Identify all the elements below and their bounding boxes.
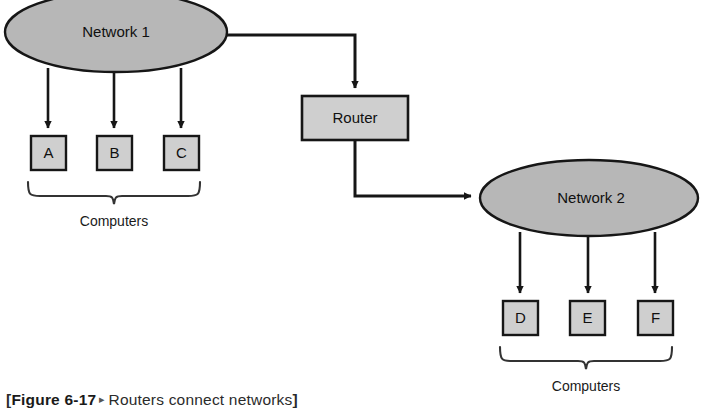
computers-left-group: Computers xyxy=(28,182,200,229)
computer-a-label: A xyxy=(43,144,53,161)
caption-separator-icon: ▸ xyxy=(96,393,108,405)
edge-router-network2-path xyxy=(355,140,471,196)
router-label: Router xyxy=(332,109,377,126)
network-diagram: Network 1 Router A B xyxy=(0,0,701,416)
edges-network2-to-computers xyxy=(520,232,655,293)
computer-f-label: F xyxy=(651,309,660,326)
caption-figure-number: Figure 6-17 xyxy=(11,391,96,408)
figure-caption-bar: [Figure 6-17▸Routers connect networks] xyxy=(0,390,701,416)
figure-caption: [Figure 6-17▸Routers connect networks] xyxy=(6,391,298,409)
edge-network1-router-path xyxy=(227,35,355,88)
network-2-label: Network 2 xyxy=(557,189,625,206)
computer-box-d[interactable]: D xyxy=(503,301,538,335)
computer-e-label: E xyxy=(582,309,592,326)
computers-right-brace xyxy=(500,347,672,369)
computers-left-label: Computers xyxy=(80,213,148,229)
computers-left-brace xyxy=(28,182,200,204)
node-network-1[interactable]: Network 1 xyxy=(5,0,227,72)
caption-description: Routers connect networks xyxy=(108,391,292,408)
node-router[interactable]: Router xyxy=(302,96,408,140)
computer-d-label: D xyxy=(515,309,526,326)
computer-box-c[interactable]: C xyxy=(164,136,199,170)
computer-box-b[interactable]: B xyxy=(97,136,132,170)
computer-b-label: B xyxy=(109,144,119,161)
computer-box-a[interactable]: A xyxy=(31,136,66,170)
computers-right-group: Computers xyxy=(500,347,672,394)
caption-close-bracket: ] xyxy=(292,391,297,408)
computer-box-e[interactable]: E xyxy=(570,301,605,335)
edges-network1-to-computers xyxy=(48,68,181,128)
computer-c-label: C xyxy=(176,144,187,161)
figure-container: Network 1 Router A B xyxy=(0,0,701,416)
computer-box-f[interactable]: F xyxy=(638,301,673,335)
node-network-2[interactable]: Network 2 xyxy=(480,160,698,236)
edge-network1-to-router xyxy=(227,35,355,88)
network-1-label: Network 1 xyxy=(82,23,150,40)
edge-router-to-network2 xyxy=(355,140,471,196)
